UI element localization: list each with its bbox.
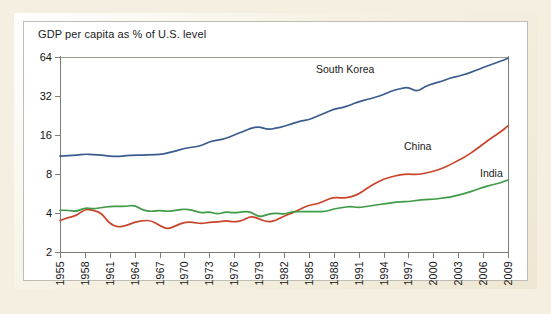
x-tick-mark (60, 253, 61, 258)
x-tick-label: 1991 (353, 261, 365, 286)
x-tick-mark (508, 253, 509, 258)
chart-title: GDP per capita as % of U.S. level (38, 28, 206, 40)
x-tick-label: 2009 (502, 261, 514, 286)
x-tick-mark (259, 253, 260, 258)
y-tick-mark (55, 135, 60, 136)
x-tick-mark (284, 253, 285, 258)
x-tick-label: 1973 (203, 261, 215, 286)
y-tick-label: 2 (26, 246, 52, 258)
x-tick-label: 1997 (402, 261, 414, 286)
x-tick-mark (458, 253, 459, 258)
x-tick-mark (359, 253, 360, 258)
x-tick-label: 2006 (477, 261, 489, 286)
x-tick-mark (483, 253, 484, 258)
series-label-south-korea: South Korea (316, 63, 374, 75)
x-tick-label: 1967 (154, 261, 166, 286)
y-tick-mark (55, 213, 60, 214)
x-tick-mark (384, 253, 385, 258)
series-label-china: China (404, 140, 431, 152)
y-tick-label: 4 (26, 207, 52, 219)
x-tick-label: 1961 (104, 261, 116, 286)
y-tick-mark (55, 174, 60, 175)
x-tick-mark (135, 253, 136, 258)
x-tick-mark (85, 253, 86, 258)
x-tick-label: 2000 (427, 261, 439, 286)
x-tick-mark (309, 253, 310, 258)
x-tick-mark (110, 253, 111, 258)
x-tick-mark (234, 253, 235, 258)
x-tick-label: 1985 (303, 261, 315, 286)
y-tick-label: 8 (26, 168, 52, 180)
x-tick-label: 1982 (278, 261, 290, 286)
y-axis-line (60, 56, 61, 253)
x-tick-mark (408, 253, 409, 258)
x-tick-label: 1994 (378, 261, 390, 286)
x-tick-mark (160, 253, 161, 258)
x-tick-label: 1976 (228, 261, 240, 286)
x-tick-label: 2003 (452, 261, 464, 286)
x-tick-label: 1988 (328, 261, 340, 286)
y-tick-mark (55, 57, 60, 58)
plot-top-border (60, 57, 509, 58)
x-tick-label: 1958 (79, 261, 91, 286)
y-axis-labels: 248163264 (26, 0, 52, 314)
y-tick-label: 64 (26, 51, 52, 63)
chart-panel: GDP per capita as % of U.S. level (23, 21, 528, 281)
y-tick-label: 32 (26, 90, 52, 102)
x-tick-mark (209, 253, 210, 258)
figure-frame: GDP per capita as % of U.S. level 248163… (0, 0, 551, 314)
x-tick-mark (433, 253, 434, 258)
x-tick-label: 1964 (129, 261, 141, 286)
x-tick-label: 1970 (178, 261, 190, 286)
plot-right-border (508, 56, 509, 253)
series-label-india: India (480, 167, 503, 179)
x-tick-label: 1955 (54, 261, 66, 286)
x-tick-label: 1979 (253, 261, 265, 286)
x-tick-mark (184, 253, 185, 258)
y-tick-mark (55, 96, 60, 97)
y-tick-label: 16 (26, 129, 52, 141)
x-tick-mark (334, 253, 335, 258)
